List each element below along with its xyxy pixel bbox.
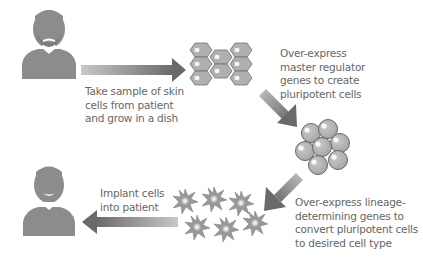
spiky-cell-icon — [243, 211, 268, 236]
hexagon-cell-cluster-icon — [190, 43, 252, 85]
person-neutral-icon — [22, 10, 76, 79]
spiky-cell-icon — [173, 189, 198, 214]
arrow-right-icon — [81, 58, 186, 82]
round-cell-cluster-icon — [296, 120, 350, 175]
caption-sample: Take sample of skin cells from patient a… — [85, 85, 184, 126]
spiky-cell-icon — [214, 217, 239, 242]
spiky-cell-icon — [229, 191, 254, 216]
spiky-cell-group — [173, 187, 268, 242]
caption-implant: Implant cells into patient — [100, 187, 164, 214]
caption-reprogram: Over-express master regulator genes to c… — [280, 47, 365, 101]
spiky-cell-icon — [185, 215, 210, 240]
person-smiling-icon — [23, 167, 75, 237]
caption-differentiate: Over-express lineage- determining genes … — [295, 196, 418, 250]
spiky-cell-icon — [202, 187, 227, 212]
